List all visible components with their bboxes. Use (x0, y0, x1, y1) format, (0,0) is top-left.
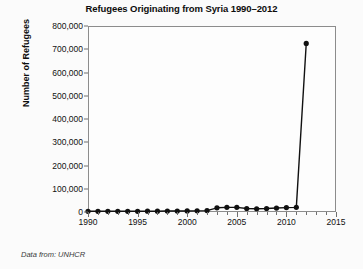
x-tick-mark-minor (247, 212, 248, 215)
y-tick-mark (84, 95, 88, 96)
x-tick-mark-minor (98, 212, 99, 215)
chart-figure: Refugees Originating from Syria 1990–201… (0, 0, 363, 269)
y-tick-label: 800,000 (52, 22, 83, 31)
data-point-marker (284, 205, 289, 210)
data-point-marker (234, 205, 239, 210)
y-tick-mark (84, 49, 88, 50)
x-tick-label: 2010 (277, 218, 296, 227)
x-tick-mark-minor (177, 212, 178, 215)
chart-title: Refugees Originating from Syria 1990–201… (0, 3, 363, 14)
x-tick-mark-minor (267, 212, 268, 215)
y-tick-label: 300,000 (52, 138, 83, 147)
x-tick-mark-minor (276, 212, 277, 215)
data-point-marker (294, 205, 299, 210)
data-point-marker (224, 205, 229, 210)
y-tick-mark (84, 165, 88, 166)
x-tick-mark-minor (257, 212, 258, 215)
x-tick-label: 2000 (178, 218, 197, 227)
y-tick-label: 100,000 (52, 185, 83, 194)
y-tick-label: 700,000 (52, 45, 83, 54)
x-tick-mark-minor (326, 212, 327, 215)
series-markers (85, 41, 308, 214)
x-tick-mark-minor (157, 212, 158, 215)
data-point-marker (264, 206, 269, 211)
source-note: Data from: UNHCR (21, 250, 85, 259)
data-point-marker (244, 206, 249, 211)
x-tick-mark-minor (108, 212, 109, 215)
y-tick-mark (84, 72, 88, 73)
x-tick-mark-minor (197, 212, 198, 215)
y-tick-label: 500,000 (52, 92, 83, 101)
x-tick-mark-minor (207, 212, 208, 215)
y-tick-mark (84, 26, 88, 27)
data-series-plot (88, 26, 336, 212)
x-tick-mark-minor (316, 212, 317, 215)
x-tick-mark-minor (167, 212, 168, 215)
data-point-marker (214, 205, 219, 210)
data-point-marker (274, 205, 279, 210)
data-point-marker (304, 41, 309, 46)
series-line (88, 43, 306, 211)
y-tick-mark (84, 119, 88, 120)
x-tick-mark-minor (217, 212, 218, 215)
y-tick-label: 600,000 (52, 68, 83, 77)
x-tick-label: 1990 (79, 218, 98, 227)
x-tick-mark-minor (296, 212, 297, 215)
x-tick-label: 1995 (128, 218, 147, 227)
y-tick-mark (84, 188, 88, 189)
x-tick-label: 2015 (327, 218, 346, 227)
y-tick-label: 200,000 (52, 161, 83, 170)
x-tick-mark-minor (306, 212, 307, 215)
y-axis-title: Number of Refugees (21, 0, 31, 137)
x-tick-mark-minor (227, 212, 228, 215)
y-tick-mark (84, 142, 88, 143)
x-tick-label: 2005 (227, 218, 246, 227)
x-tick-mark-minor (118, 212, 119, 215)
y-tick-label: 400,000 (52, 115, 83, 124)
x-tick-mark-minor (148, 212, 149, 215)
x-tick-mark-minor (128, 212, 129, 215)
data-point-marker (254, 206, 259, 211)
plot-area: 0100,000200,000300,000400,000500,000600,… (88, 26, 336, 212)
y-tick-label: 0 (78, 208, 83, 217)
